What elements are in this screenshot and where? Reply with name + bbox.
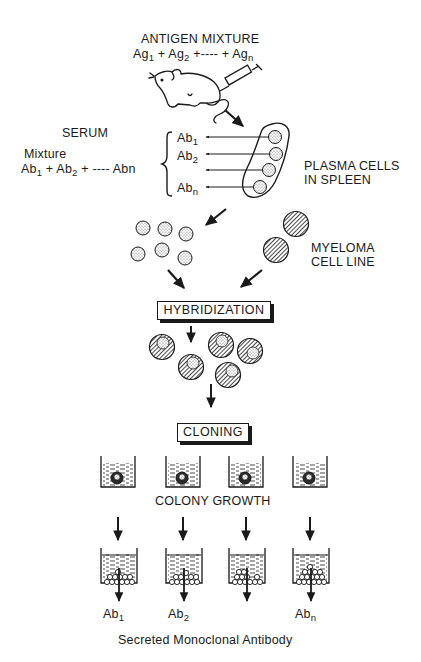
- colony-cell: [169, 579, 174, 584]
- colony-well: [101, 456, 135, 487]
- term: Abn: [177, 181, 198, 195]
- arrow-plasma-to-hybrid: [168, 270, 184, 288]
- colony-cell: [127, 574, 132, 579]
- plasma-cell: [254, 181, 267, 194]
- colony-cell: [312, 569, 317, 574]
- colony-cell: [304, 574, 309, 579]
- colony-cell: [104, 579, 109, 584]
- colony-cell: [236, 569, 241, 574]
- colony-cell: [316, 579, 321, 584]
- term: Ag1: [133, 47, 154, 61]
- term: Ab1: [177, 131, 198, 145]
- well-arrows: [118, 517, 310, 540]
- colony-cell: [321, 579, 326, 584]
- colony-cell: [178, 574, 183, 579]
- spleen-label: PLASMA CELLS IN SPLEEN: [304, 159, 400, 187]
- plasma-cells-group: [131, 221, 193, 265]
- secretion-wells: [101, 548, 329, 601]
- well-output-1: Ab1: [103, 607, 124, 625]
- colony-cell: [193, 574, 198, 579]
- colony-cell: [257, 579, 262, 584]
- secretion-well: [293, 548, 329, 601]
- colony-cell: [252, 579, 257, 584]
- colony-cell: [194, 579, 199, 584]
- well-output-2: Ab2: [168, 607, 189, 625]
- syringe-icon: [220, 64, 262, 91]
- term: Ab2: [56, 162, 77, 176]
- hybridization-box: HYBRIDIZATION: [157, 301, 271, 320]
- serum-heading: SERUM: [62, 126, 108, 140]
- colony-well: [229, 456, 263, 487]
- antigen-heading: ANTIGEN MIXTURE: [141, 32, 259, 46]
- term: Ag2: [168, 47, 189, 61]
- term: Agn: [232, 47, 253, 61]
- colony-well: [293, 456, 327, 487]
- colony-cell: [232, 579, 237, 584]
- diagram-canvas: [0, 0, 421, 662]
- well-output-n: Abn: [295, 607, 316, 625]
- colony-cell: [239, 574, 244, 579]
- plasma-cell: [179, 227, 193, 241]
- arrow-spleen-to-cells: [206, 209, 226, 225]
- serum-mixture-label: Mixture: [24, 147, 66, 161]
- hybrid-cell: [238, 339, 263, 364]
- serum-brace: [162, 132, 172, 196]
- term: Ab2: [177, 149, 198, 163]
- colony-cell: [109, 579, 114, 584]
- colony-cell: [247, 579, 252, 584]
- hybrid-cell: [209, 333, 234, 358]
- spleen-label-line2: IN SPLEEN: [304, 173, 400, 187]
- colony-cell: [174, 579, 179, 584]
- spleen-label-line1: PLASMA CELLS: [304, 159, 400, 173]
- colony-cell: [234, 574, 239, 579]
- colony-cell: [107, 574, 112, 579]
- myeloma-label-line2: CELL LINE: [311, 255, 375, 269]
- myeloma-cell: [264, 238, 289, 263]
- arrow-to-spleen: [225, 110, 243, 126]
- secretion-well: [101, 548, 137, 601]
- term: Abn: [295, 607, 316, 621]
- myeloma-cell: [284, 212, 309, 237]
- antibody-label-2: Ab2: [177, 149, 198, 167]
- colony-cell: [314, 574, 319, 579]
- serum-formula: Ab1 + Ab2 + ---- Abn: [21, 162, 136, 180]
- colony-cell: [317, 569, 322, 574]
- colony-cell: [254, 574, 259, 579]
- myeloma-cells-group: [264, 212, 309, 263]
- plasma-cell: [269, 131, 282, 144]
- colony-cell: [173, 574, 178, 579]
- footer-caption: Secreted Monoclonal Antibody: [118, 633, 292, 647]
- myeloma-label: MYELOMA CELL LINE: [311, 241, 375, 269]
- antibody-label-n: Abn: [177, 181, 198, 199]
- hybrid-cells-group: [150, 333, 263, 388]
- term: Ab1: [21, 162, 42, 176]
- colony-cell: [301, 579, 306, 584]
- colony-cell: [188, 574, 193, 579]
- colony-cell: [184, 579, 189, 584]
- plasma-cell: [155, 243, 169, 257]
- term: Ab2: [168, 607, 189, 621]
- cloning-box: CLONING: [177, 423, 249, 442]
- plasma-cell: [263, 164, 276, 177]
- colony-cell: [237, 579, 242, 584]
- colony-well: [166, 456, 200, 487]
- colony-cell: [124, 579, 129, 584]
- colony-cell: [299, 574, 304, 579]
- colony-cell: [302, 569, 307, 574]
- hybrid-cell: [216, 363, 241, 388]
- colony-cell: [129, 579, 134, 584]
- colony-cell: [241, 569, 246, 574]
- colony-cell: [122, 574, 127, 579]
- plasma-cell: [178, 251, 192, 265]
- antibody-label-1: Ab1: [177, 131, 198, 149]
- colony-cell: [319, 574, 324, 579]
- secretion-well: [166, 548, 202, 601]
- spleen: [243, 123, 289, 197]
- plasma-cell: [158, 222, 172, 236]
- hybrid-cell: [150, 335, 175, 360]
- colony-cell: [112, 574, 117, 579]
- mouse-icon: [149, 70, 228, 123]
- colony-wells: [101, 456, 327, 487]
- colony-cell: [119, 579, 124, 584]
- antigen-formula: Ag1 + Ag2 +---- + Agn: [133, 47, 254, 65]
